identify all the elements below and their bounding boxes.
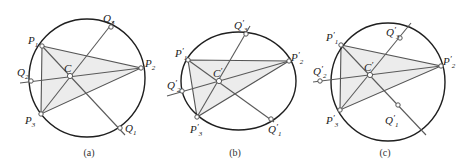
conic-projection-figure: P1P2P3CQ1Q2Q3(a)P′1P′2P′3C′Q′1Q′2Q′3(b)P… (0, 0, 468, 168)
label-p3: P′3 (325, 113, 339, 129)
label-q3: Q′3 (386, 25, 400, 41)
point-q2 (318, 79, 322, 83)
point-q2 (29, 79, 33, 83)
label-c: C (64, 62, 72, 74)
panel-c: P′1P′2P′3C′Q′1Q′2Q′3(c) (313, 23, 456, 159)
point-p1 (339, 43, 343, 47)
label-p1: P′1 (325, 30, 338, 46)
label-p3: P′3 (189, 122, 203, 138)
point-q1 (269, 117, 273, 121)
label-q3: Q3 (103, 12, 115, 27)
label-q1: Q′1 (385, 113, 398, 129)
triangle-p1p2p3 (41, 46, 141, 114)
label-p1: P′1 (174, 46, 187, 62)
caption-a: (a) (83, 147, 94, 159)
panel-b: P′1P′2P′3C′Q′1Q′2Q′3(b) (167, 18, 304, 159)
point-q1 (118, 126, 122, 130)
point-c (67, 73, 72, 78)
point-c (367, 72, 372, 77)
point-p1 (40, 44, 44, 48)
label-p3: P3 (24, 114, 36, 129)
point-q2 (180, 89, 184, 93)
label-q1: Q1 (125, 122, 136, 137)
label-p2: P2 (144, 57, 156, 72)
point-c (216, 78, 221, 83)
caption-c: (c) (379, 147, 390, 159)
triangle-p1p2p3 (340, 45, 441, 110)
triangle-p1p2p3 (188, 60, 289, 117)
point-q1 (396, 103, 400, 107)
point-p3 (195, 115, 199, 119)
label-q1: Q′1 (268, 122, 281, 138)
point-p3 (338, 108, 342, 112)
label-q2: Q′2 (313, 64, 327, 80)
point-p2 (139, 66, 143, 70)
point-p3 (39, 112, 43, 116)
label-q2: Q′2 (167, 78, 181, 94)
caption-b: (b) (229, 147, 241, 159)
label-q2: Q2 (17, 66, 29, 81)
label-p1: P1 (27, 34, 38, 49)
panel-a: P1P2P3CQ1Q2Q3(a) (17, 12, 156, 159)
